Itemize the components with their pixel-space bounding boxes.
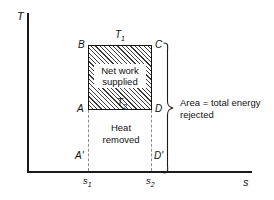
heat-removed-label-line1: Heat: [92, 122, 150, 134]
net-work-label-line2: supplied: [94, 76, 146, 87]
tick-label-s2: s2: [146, 176, 155, 188]
point-label-a-prime: A': [75, 151, 84, 161]
area-note-line1: Area = total energy: [180, 97, 272, 109]
dashed-dropline-s2: [151, 110, 152, 171]
temperature-label-t1: T1: [115, 30, 125, 42]
area-note-line2: rejected: [180, 109, 272, 121]
point-label-a: A: [77, 104, 84, 114]
ts-diagram-figure: T s Net work supplied B C A D A' D' T1 T…: [0, 0, 274, 200]
net-work-label: Net work supplied: [94, 64, 146, 88]
entropy-axis-label: s: [243, 177, 249, 188]
dashed-dropline-s1: [88, 110, 89, 171]
temperature-axis-line: [27, 13, 29, 172]
tick-label-s1: s1: [83, 176, 92, 188]
heat-removed-label-line2: removed: [92, 134, 150, 146]
s2-subscript: 2: [151, 181, 155, 188]
point-label-b: B: [78, 40, 85, 50]
heat-removed-label: Heat removed: [92, 122, 150, 145]
t1-subscript: 1: [121, 35, 125, 42]
temperature-label-t2: T2: [117, 98, 127, 110]
total-energy-brace-icon: [158, 42, 178, 174]
total-energy-rejected-note: Area = total energy rejected: [180, 97, 272, 120]
entropy-axis-line: [27, 171, 252, 173]
net-work-label-line1: Net work: [94, 65, 146, 76]
temperature-axis-label: T: [17, 11, 24, 22]
s1-subscript: 1: [88, 181, 92, 188]
t2-subscript: 2: [123, 103, 127, 110]
